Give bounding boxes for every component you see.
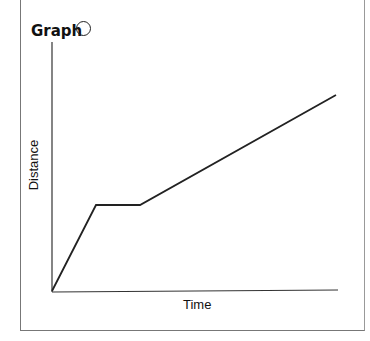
x-axis	[52, 290, 338, 292]
x-axis-label: Time	[183, 297, 211, 312]
distance-line	[52, 95, 336, 291]
y-axis-label: Distance	[26, 140, 41, 191]
line-chart	[0, 0, 370, 341]
